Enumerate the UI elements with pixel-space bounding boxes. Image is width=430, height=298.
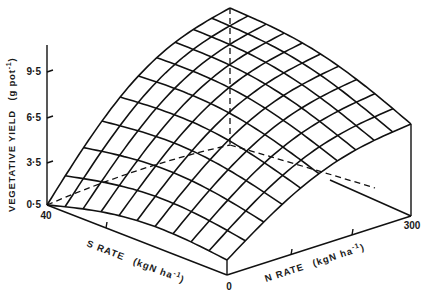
dashed-s-projection — [47, 145, 230, 205]
mesh-line-s — [230, 8, 411, 124]
z-axis-title: VEGETATIVE YIELD (g pot-1) — [5, 58, 17, 212]
z-tick-3-5 — [47, 161, 53, 163]
z-tick-label-6-5: 6·5 — [27, 112, 42, 123]
n-tick-label-0: 0 — [226, 281, 232, 292]
n-axis-tick-2 — [352, 229, 353, 235]
s-axis-tick — [106, 222, 107, 228]
mesh-line-n — [83, 24, 266, 209]
z-tick-label-9-5: 9·5 — [27, 66, 42, 77]
mesh-line-s — [120, 97, 300, 188]
n-axis-tick-1 — [291, 249, 292, 255]
surface-plot: 9·5 6·5 3·5 0·5 40 0 300 VEGETATIVE YIEL… — [0, 0, 430, 298]
mesh-line-n — [173, 80, 357, 234]
side-wall-line — [330, 180, 411, 216]
z-tick-label-0-5: 0·5 — [27, 199, 42, 210]
s-tick-label-40: 40 — [40, 210, 52, 221]
mesh-line-n — [47, 8, 230, 205]
z-tick-9-5 — [47, 70, 53, 72]
mesh-line-n — [209, 109, 393, 251]
surface-mesh — [47, 8, 411, 260]
mesh-line-s — [65, 176, 245, 241]
z-tick-6-5 — [47, 116, 53, 118]
z-tick-label-3-5: 3·5 — [27, 157, 42, 168]
mesh-line-n — [191, 94, 375, 242]
mesh-line-s — [212, 18, 393, 132]
s-axis-title: S RATE (kgN ha-1) — [85, 237, 186, 285]
mesh-line-s — [193, 29, 374, 140]
n-tick-label-300: 300 — [404, 220, 421, 231]
mesh-line-s — [102, 121, 282, 204]
